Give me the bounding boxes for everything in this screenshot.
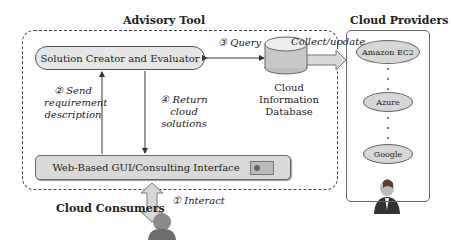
database-label: Cloud Information Database — [248, 82, 330, 118]
ellipsis-dot — [387, 127, 389, 129]
web-gui-label: Web-Based GUI/Consulting Interface — [52, 162, 239, 173]
window-icon — [250, 161, 274, 175]
step3-query-label: ③ Query — [218, 37, 261, 49]
ellipsis-dot — [387, 117, 389, 119]
database-label-line2: Database — [248, 106, 330, 118]
step4-line1: ④ Return cloud — [148, 94, 220, 118]
ellipsis-dot — [387, 78, 389, 80]
ellipsis-dot — [387, 137, 389, 139]
step2-line3: description — [44, 109, 102, 121]
ellipsis-dot — [387, 68, 389, 70]
step2-label: ② Send requirement description — [44, 85, 102, 121]
step2-line2: requirement — [44, 97, 102, 109]
provider-azure: Azure — [363, 92, 413, 112]
step4-label: ④ Return cloud solutions — [148, 94, 220, 130]
database-label-line1: Cloud Information — [248, 82, 330, 106]
step1-interact-label: ① Interact — [172, 195, 225, 207]
step4-line2: solutions — [148, 118, 220, 130]
provider-google: Google — [363, 144, 413, 164]
provider-amazon-ec2: Amazon EC2 — [356, 40, 420, 64]
cloud-consumers-title: Cloud Consumers — [56, 202, 165, 215]
step2-line1: ② Send — [44, 85, 102, 97]
ellipsis-dot — [387, 88, 389, 90]
web-gui-box: Web-Based GUI/Consulting Interface — [35, 155, 291, 180]
